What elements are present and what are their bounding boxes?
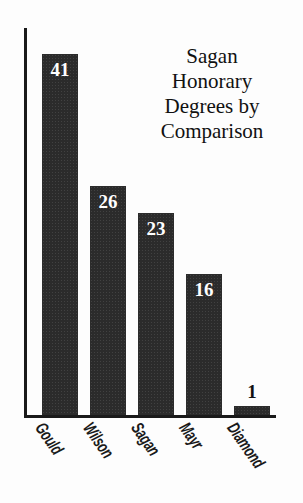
bar-mayr[interactable]: 16 <box>186 274 222 415</box>
bar-diamond[interactable]: 1 <box>234 406 270 415</box>
x-axis-category-labels: Gould Wilson Sagan Mayr Diamond <box>27 419 303 503</box>
bar-value-label-gould: 41 <box>42 60 78 79</box>
bar-chart-figure: Sagan Honorary Degrees by Comparison 41 … <box>0 0 303 503</box>
bar-wilson[interactable]: 26 <box>90 186 126 415</box>
x-label-mayr: Mayr <box>177 419 207 452</box>
x-label-gould: Gould <box>33 419 67 457</box>
bar-value-label-diamond: 1 <box>234 382 270 401</box>
bar-sagan[interactable]: 23 <box>138 213 174 415</box>
x-axis-line <box>24 415 276 418</box>
bar-gould[interactable]: 41 <box>42 54 78 415</box>
bar-value-label-wilson: 26 <box>90 192 126 211</box>
x-label-sagan: Sagan <box>129 419 164 458</box>
x-label-wilson: Wilson <box>81 419 118 461</box>
bar-value-label-sagan: 23 <box>138 219 174 238</box>
x-label-diamond: Diamond <box>225 419 269 471</box>
plot-area: 41 26 23 16 1 <box>27 28 276 415</box>
bar-value-label-mayr: 16 <box>186 280 222 299</box>
